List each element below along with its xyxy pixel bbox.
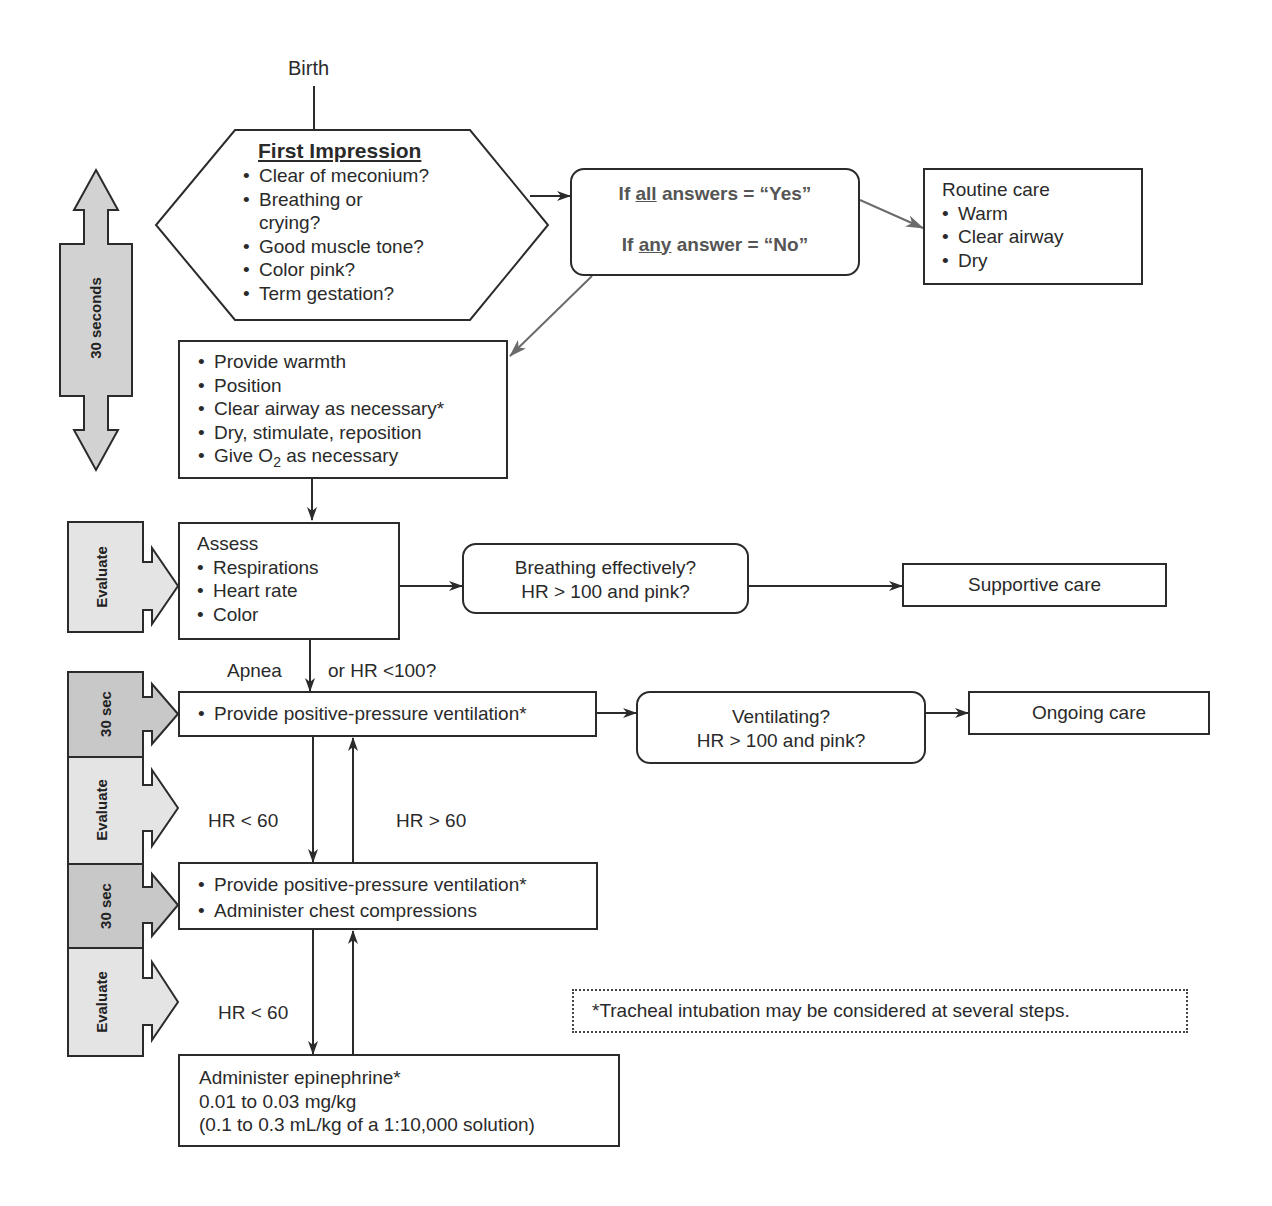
list-item: Good muscle tone? [243,235,429,259]
first-impression-content: First Impression Clear of meconium? Brea… [243,138,429,305]
list-item: Color [197,603,398,627]
thirty-sec-label-1: 30 sec [96,674,116,754]
list-item: Administer chest compressions [198,899,596,923]
routine-care-title: Routine care [942,178,1141,202]
epinephrine-line1: Administer epinephrine* [199,1066,618,1090]
first-impression-title: First Impression [258,138,429,164]
routine-care-list: Warm Clear airway Dry [942,202,1141,273]
list-item: Provide warmth [198,350,506,374]
initial-steps-box: Provide warmth Position Clear airway as … [178,340,508,479]
thirty-seconds-label: 30 seconds [86,268,106,368]
text: as necessary [281,445,398,466]
list-item: Heart rate [197,579,398,603]
footnote-text: *Tracheal intubation may be considered a… [574,991,1186,1031]
hr-greater-60-label: HR > 60 [396,809,466,833]
ppv-list: Provide positive-pressure ventilation* [198,702,595,726]
compressions-list: Provide positive-pressure ventilation* A… [198,873,596,922]
list-item: Position [198,374,506,398]
ventilating-check-line1: Ventilating? [638,705,924,729]
hr-less-60-label-2: HR < 60 [218,1001,288,1025]
initial-steps-list: Provide warmth Position Clear airway as … [198,350,506,474]
all-yes-line: If all answers = “Yes” [572,182,858,206]
list-item-continuation: crying? [243,211,429,235]
supportive-care-label: Supportive care [904,565,1165,605]
evaluate-arrow-assess [68,522,178,632]
breathing-check-line2: HR > 100 and pink? [464,580,747,604]
birth-label: Birth [288,57,329,81]
list-item: Respirations [197,556,398,580]
supportive-care-box: Supportive care [902,563,1167,607]
list-item: Dry [942,249,1141,273]
any-no-line: If any answer = “No” [572,233,858,257]
evaluate-label-3: Evaluate [92,962,112,1042]
apnea-label: Apnea [227,659,282,683]
list-item-oxygen: Give O2 as necessary [198,444,506,474]
ventilating-check-line2: HR > 100 and pink? [638,729,924,753]
list-item: Color pink? [243,258,429,282]
assess-title: Assess [197,532,398,556]
list-item: Term gestation? [243,282,429,306]
thirty-sec-arrow-1 [68,672,178,757]
list-item: Provide positive-pressure ventilation* [198,702,595,726]
evaluate-arrow-3 [68,948,178,1056]
assess-box: Assess Respirations Heart rate Color [178,522,400,640]
list-item: Dry, stimulate, reposition [198,421,506,445]
compressions-box: Provide positive-pressure ventilation* A… [178,862,598,930]
routine-care-box: Routine care Warm Clear airway Dry [923,168,1143,285]
list-item: Provide positive-pressure ventilation* [198,873,596,897]
thirty-sec-arrow-2 [68,864,178,948]
list-item: Warm [942,202,1141,226]
text: answer = “No” [671,234,808,255]
text: Give O [214,445,273,466]
ventilating-check-box: Ventilating? HR > 100 and pink? [636,691,926,764]
breathing-check-line1: Breathing effectively? [464,556,747,580]
epinephrine-line2: 0.01 to 0.03 mg/kg [199,1090,618,1114]
breathing-check-box: Breathing effectively? HR > 100 and pink… [462,543,749,614]
text: answers = “Yes” [657,183,812,204]
answers-decision-box: If all answers = “Yes” If any answer = “… [570,168,860,276]
text: If [619,183,636,204]
footnote-box: *Tracheal intubation may be considered a… [572,989,1188,1033]
list-item: Clear of meconium? [243,164,429,188]
thirty-sec-label-2: 30 sec [96,866,116,946]
subscript: 2 [273,454,281,470]
epinephrine-line3: (0.1 to 0.3 mL/kg of a 1:10,000 solution… [199,1113,618,1137]
first-impression-list: Clear of meconium? Breathing or crying? … [243,164,429,305]
evaluate-arrow-2 [68,757,178,864]
list-item: Clear airway [942,225,1141,249]
ongoing-care-box: Ongoing care [968,691,1210,735]
emph-any: any [639,234,672,255]
epinephrine-box: Administer epinephrine* 0.01 to 0.03 mg/… [178,1054,620,1147]
list-item: Breathing or [243,188,429,212]
evaluate-label: Evaluate [92,537,112,617]
list-item: Clear airway as necessary* [198,397,506,421]
hr-less-60-label-1: HR < 60 [208,809,278,833]
assess-list: Respirations Heart rate Color [197,556,398,627]
emph-all: all [636,183,657,204]
ppv-box: Provide positive-pressure ventilation* [178,691,597,737]
hr-less-100-label: or HR <100? [328,659,436,683]
ongoing-care-label: Ongoing care [970,693,1208,733]
evaluate-label-2: Evaluate [92,770,112,850]
list-item-text: crying? [259,212,320,233]
text: If [622,234,639,255]
